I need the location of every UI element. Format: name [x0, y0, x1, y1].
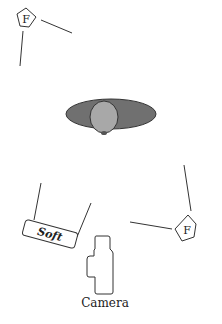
softbox: Soft	[22, 183, 91, 249]
fill-light-right-label: F	[183, 224, 191, 237]
nose-shape	[101, 131, 107, 135]
head-shape	[90, 101, 118, 133]
softbox-line	[77, 203, 91, 237]
lighting-diagram: F F Soft Camera	[0, 0, 222, 324]
barn-door-line	[20, 31, 23, 66]
fill-light-top-label: F	[22, 13, 30, 26]
barn-door-line	[130, 222, 172, 229]
fill-light-top: F	[17, 8, 72, 66]
subject	[66, 99, 156, 135]
camera-icon	[87, 236, 113, 294]
barn-door-line	[184, 165, 191, 211]
camera-label: Camera	[81, 296, 129, 310]
softbox-line	[34, 183, 41, 220]
barn-door-line	[41, 20, 72, 33]
camera: Camera	[81, 236, 129, 310]
fill-light-right: F	[130, 165, 196, 241]
